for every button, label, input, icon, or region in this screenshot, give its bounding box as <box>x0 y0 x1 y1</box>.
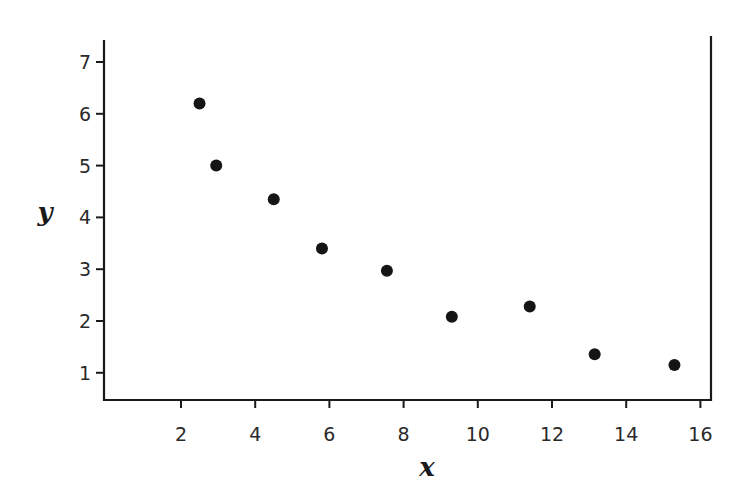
y-tick-label: 1 <box>79 362 91 384</box>
x-tick-label: 4 <box>249 423 261 445</box>
data-point <box>446 311 458 323</box>
y-tick-label: 6 <box>79 103 91 125</box>
y-tick-label: 4 <box>79 206 91 228</box>
axis-lines <box>104 36 711 400</box>
data-point <box>210 160 222 172</box>
y-tick-label: 3 <box>79 258 91 280</box>
data-point <box>668 359 680 371</box>
x-axis-ticks: 246810121416 <box>175 400 713 445</box>
x-tick-label: 6 <box>323 423 335 445</box>
x-tick-label: 12 <box>540 423 564 445</box>
y-tick-label: 7 <box>79 51 91 73</box>
x-tick-label: 10 <box>466 423 490 445</box>
x-axis-label: x <box>418 452 435 482</box>
y-tick-label: 5 <box>79 155 91 177</box>
x-tick-label: 14 <box>614 423 638 445</box>
scatter-chart: 1234567 246810121416 y x <box>0 0 745 498</box>
data-point <box>194 97 206 109</box>
x-tick-label: 8 <box>398 423 410 445</box>
data-point <box>268 193 280 205</box>
data-point <box>589 348 601 360</box>
x-tick-label: 16 <box>688 423 712 445</box>
y-tick-label: 2 <box>79 310 91 332</box>
y-axis-ticks: 1234567 <box>79 51 104 384</box>
data-points <box>194 97 681 371</box>
axes-frame <box>104 36 711 400</box>
data-point <box>524 300 536 312</box>
y-axis-label: y <box>36 197 54 227</box>
data-point <box>381 265 393 277</box>
data-point <box>316 242 328 254</box>
x-tick-label: 2 <box>175 423 187 445</box>
